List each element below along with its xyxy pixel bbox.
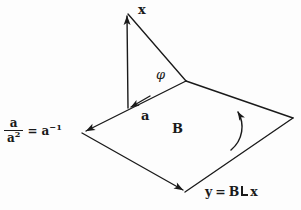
result-equals-sign: =: [215, 186, 225, 199]
result-vector: x: [250, 186, 257, 199]
left-contraction-icon: [241, 186, 248, 196]
label-angle-phi: φ: [156, 68, 165, 81]
plane-edge-apex-left-arrow: [86, 81, 186, 131]
fraction-a-over-a-squared: a a2: [4, 117, 23, 144]
plane-edge-left-bottom-arrow: [82, 133, 183, 190]
label-result-equation: y = B x: [205, 186, 258, 199]
fraction-denominator-exponent: 2: [15, 129, 21, 139]
equals-sign: =: [27, 125, 37, 137]
vector-a-arrow: [131, 96, 150, 107]
result-bivector: B: [229, 186, 240, 199]
label-bivector-b: B: [172, 122, 183, 135]
geometric-algebra-figure: x a B φ a a2 = a−1 y = B x: [0, 0, 301, 210]
vector-x-shaft-arrow: [127, 16, 128, 108]
label-vector-x: x: [138, 3, 146, 16]
label-inverse-equation: a a2 = a−1: [4, 117, 62, 144]
figure-diagram-svg: [0, 0, 301, 210]
plane-edge-right-bottom: [185, 118, 293, 192]
fraction-numerator: a: [7, 117, 21, 130]
plane-edge-apex-right: [186, 81, 293, 118]
orientation-arc-arrow: [231, 112, 242, 150]
result-lhs: y: [205, 186, 212, 199]
inverse-result: a−1: [42, 125, 62, 137]
inverse-result-exponent: −1: [49, 122, 62, 132]
bivector-plane-outline: [82, 81, 293, 192]
label-vector-a: a: [141, 109, 149, 122]
fraction-denominator-base: a: [7, 131, 15, 145]
fraction-denominator: a2: [4, 131, 23, 144]
